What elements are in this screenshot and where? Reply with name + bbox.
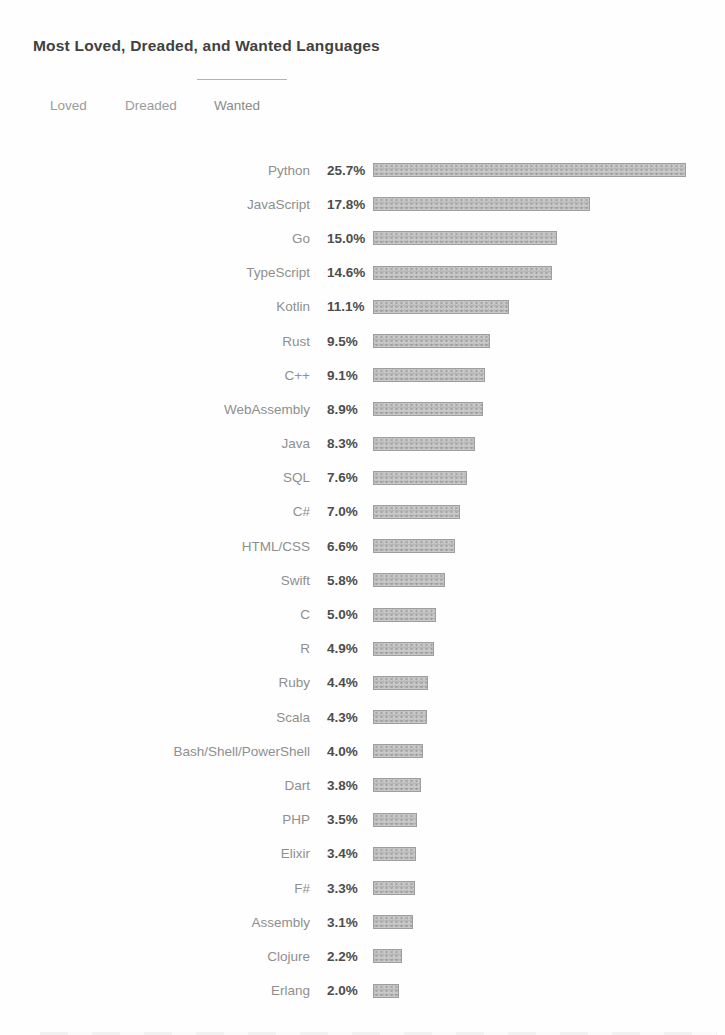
language-label: TypeScript [0, 265, 310, 280]
percent-value: 7.6% [327, 470, 373, 485]
language-label: JavaScript [0, 197, 310, 212]
percent-value: 7.0% [327, 504, 373, 519]
language-label: Elixir [0, 846, 310, 861]
chart-row: Elixir3.4% [0, 837, 725, 871]
percent-value: 8.9% [327, 402, 373, 417]
chart-row: JavaScript17.8% [0, 187, 725, 221]
chart-row: Assembly3.1% [0, 905, 725, 939]
percent-value: 2.2% [327, 949, 373, 964]
bar [373, 642, 434, 656]
percent-value: 3.8% [327, 778, 373, 793]
language-label: SQL [0, 470, 310, 485]
bar [373, 813, 417, 827]
percent-value: 14.6% [327, 265, 373, 280]
chart-row: R4.9% [0, 632, 725, 666]
language-label: Erlang [0, 983, 310, 998]
chart-row: Bash/Shell/PowerShell4.0% [0, 734, 725, 768]
tab-dreaded[interactable]: Dreaded [125, 98, 177, 113]
bar [373, 676, 428, 690]
language-label: Swift [0, 573, 310, 588]
bar [373, 334, 490, 348]
language-label: C [0, 607, 310, 622]
percent-value: 3.3% [327, 881, 373, 896]
percent-value: 4.9% [327, 641, 373, 656]
bar [373, 197, 590, 211]
chart-row: Go15.0% [0, 221, 725, 255]
language-label: Kotlin [0, 299, 310, 314]
bar [373, 608, 436, 622]
percent-value: 2.0% [327, 983, 373, 998]
bar [373, 539, 455, 553]
percent-value: 4.4% [327, 675, 373, 690]
language-label: F# [0, 881, 310, 896]
language-label: Python [0, 163, 310, 178]
bar [373, 984, 399, 998]
language-label: Ruby [0, 675, 310, 690]
bar [373, 231, 557, 245]
language-label: R [0, 641, 310, 656]
bar [373, 573, 445, 587]
chart-row: Rust9.5% [0, 324, 725, 358]
bar [373, 778, 421, 792]
chart-row: Python25.7% [0, 153, 725, 187]
chart-row: PHP3.5% [0, 803, 725, 837]
chart-row: Erlang2.0% [0, 974, 725, 1008]
percent-value: 4.0% [327, 744, 373, 759]
chart-row: Kotlin11.1% [0, 290, 725, 324]
language-label: WebAssembly [0, 402, 310, 417]
chart-row: Ruby4.4% [0, 666, 725, 700]
bar [373, 744, 423, 758]
chart-row: Swift5.8% [0, 563, 725, 597]
language-label: Assembly [0, 915, 310, 930]
chart-title: Most Loved, Dreaded, and Wanted Language… [33, 37, 380, 55]
percent-value: 3.4% [327, 846, 373, 861]
language-label: C# [0, 504, 310, 519]
chart-row: TypeScript14.6% [0, 256, 725, 290]
chart-row: HTML/CSS6.6% [0, 529, 725, 563]
percent-value: 5.8% [327, 573, 373, 588]
chart-row: Scala4.3% [0, 700, 725, 734]
percent-value: 25.7% [327, 163, 373, 178]
bar [373, 505, 460, 519]
percent-value: 9.5% [327, 334, 373, 349]
bar [373, 437, 475, 451]
percent-value: 4.3% [327, 710, 373, 725]
chart-row: WebAssembly8.9% [0, 392, 725, 426]
tab-wanted[interactable]: Wanted [214, 98, 260, 113]
language-label: Scala [0, 710, 310, 725]
language-label: Rust [0, 334, 310, 349]
chart-row: C5.0% [0, 597, 725, 631]
percent-value: 9.1% [327, 368, 373, 383]
percent-value: 6.6% [327, 539, 373, 554]
percent-value: 11.1% [327, 299, 373, 314]
chart-rows: Python25.7%JavaScript17.8%Go15.0%TypeScr… [0, 153, 725, 1008]
bar [373, 471, 467, 485]
language-label: Go [0, 231, 310, 246]
language-label: HTML/CSS [0, 539, 310, 554]
bar [373, 163, 686, 177]
language-label: C++ [0, 368, 310, 383]
language-label: Clojure [0, 949, 310, 964]
chart-row: F#3.3% [0, 871, 725, 905]
bar [373, 402, 483, 416]
bar [373, 881, 415, 895]
chart-row: SQL7.6% [0, 461, 725, 495]
chart-row: Dart3.8% [0, 768, 725, 802]
bar [373, 300, 509, 314]
language-label: PHP [0, 812, 310, 827]
percent-value: 17.8% [327, 197, 373, 212]
survey-chart-page: Most Loved, Dreaded, and Wanted Language… [0, 0, 725, 1035]
tab-loved[interactable]: Loved [50, 98, 87, 113]
language-label: Java [0, 436, 310, 451]
percent-value: 3.1% [327, 915, 373, 930]
language-label: Bash/Shell/PowerShell [0, 744, 310, 759]
chart-row: Java8.3% [0, 427, 725, 461]
bar [373, 949, 402, 963]
percent-value: 5.0% [327, 607, 373, 622]
percent-value: 3.5% [327, 812, 373, 827]
bar [373, 847, 416, 861]
chart-row: C#7.0% [0, 495, 725, 529]
percent-value: 8.3% [327, 436, 373, 451]
chart-row: Clojure2.2% [0, 939, 725, 973]
chart-row: C++9.1% [0, 358, 725, 392]
